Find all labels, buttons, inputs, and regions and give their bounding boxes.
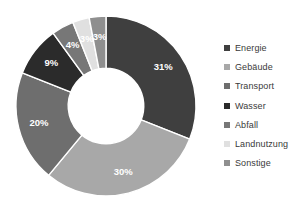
donut-chart-figure: 31%30%20%9%4%3%3% EnergieGebäudeTranspor… (0, 0, 308, 209)
legend-swatch-icon (224, 45, 230, 51)
donut-slice[interactable] (106, 16, 196, 139)
legend-item-label: Landnutzung (235, 139, 288, 149)
chart-legend: EnergieGebäudeTransportWasserAbfallLandn… (224, 38, 308, 173)
legend-item[interactable]: Wasser (224, 96, 308, 115)
legend-item[interactable]: Gebäude (224, 57, 308, 76)
donut-slice-label: 20% (30, 117, 50, 128)
legend-item[interactable]: Transport (224, 77, 308, 96)
legend-item-label: Gebäude (235, 62, 273, 72)
donut-slice-label: 3% (93, 31, 107, 42)
legend-swatch-icon (224, 122, 230, 128)
donut-slice-label: 31% (154, 61, 174, 72)
legend-item-label: Energie (235, 43, 267, 53)
legend-item[interactable]: Sonstige (224, 154, 308, 173)
donut-slice-label: 30% (114, 166, 134, 177)
legend-item-label: Abfall (235, 120, 258, 130)
donut-chart-plot-area: 31%30%20%9%4%3%3% (8, 8, 204, 204)
donut-chart-svg: 31%30%20%9%4%3%3% (8, 8, 204, 204)
legend-swatch-icon (224, 64, 230, 70)
legend-item[interactable]: Landnutzung (224, 134, 308, 153)
legend-item[interactable]: Abfall (224, 115, 308, 134)
legend-swatch-icon (224, 83, 230, 89)
donut-slice-label: 4% (66, 39, 80, 50)
legend-item-label: Sonstige (235, 158, 271, 168)
legend-item[interactable]: Energie (224, 38, 308, 57)
legend-item-label: Transport (235, 81, 274, 91)
legend-swatch-icon (224, 160, 230, 166)
legend-swatch-icon (224, 103, 230, 109)
donut-slice-group (16, 16, 196, 196)
legend-swatch-icon (224, 141, 230, 147)
legend-item-label: Wasser (235, 101, 266, 111)
donut-slice-label: 9% (45, 57, 59, 68)
